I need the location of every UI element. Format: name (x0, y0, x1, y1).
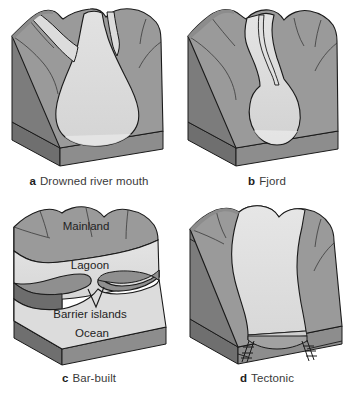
panel-bar-built: Mainland Lagoon Barrier islands Ocean cB… (0, 199, 178, 397)
caption-panel-d: dTectonic (178, 372, 356, 385)
caption-text-c: Bar-built (72, 372, 116, 384)
caption-text-b: Fjord (259, 175, 286, 187)
panel-d-illustration (178, 199, 356, 371)
panel-b-illustration (178, 0, 356, 175)
caption-letter-a: a (29, 175, 36, 187)
caption-letter-b: b (248, 175, 255, 187)
caption-panel-c: cBar-built (0, 372, 178, 385)
caption-panel-a: aDrowned river mouth (0, 175, 178, 188)
caption-panel-b: bFjord (178, 175, 356, 188)
caption-letter-d: d (240, 372, 247, 384)
panel-fjord: bFjord (178, 0, 356, 198)
label-lagoon: Lagoon (52, 259, 128, 271)
caption-text-a: Drowned river mouth (40, 175, 149, 187)
caption-text-d: Tectonic (251, 372, 294, 384)
estuary-types-figure: aDrowned river mouth (0, 0, 356, 397)
panel-a-illustration (0, 0, 178, 175)
label-mainland: Mainland (48, 220, 124, 232)
panel-tectonic: dTectonic (178, 199, 356, 397)
label-barrier-islands: Barrier islands (38, 308, 142, 320)
caption-letter-c: c (62, 372, 69, 384)
panel-drowned-river-mouth: aDrowned river mouth (0, 0, 178, 198)
label-ocean: Ocean (54, 327, 130, 339)
